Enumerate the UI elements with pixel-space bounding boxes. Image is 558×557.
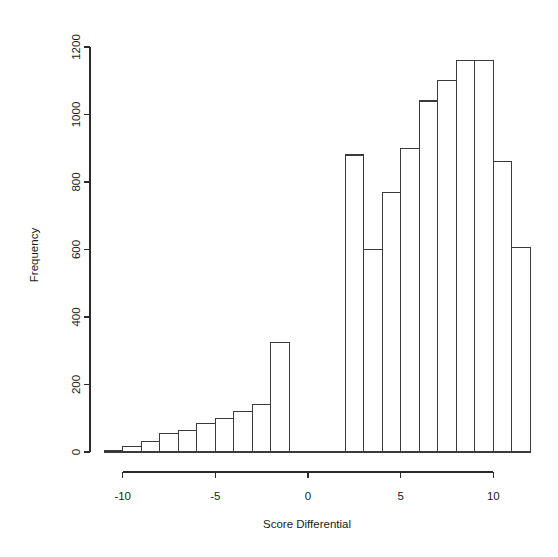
y-axis-tick-label: 0 xyxy=(70,449,82,455)
plot-canvas: 020040060080010001200 -10-50510 Frequenc… xyxy=(0,0,558,557)
x-axis-tick-label: -5 xyxy=(210,490,220,502)
histogram-figure: 020040060080010001200 -10-50510 Frequenc… xyxy=(0,0,558,557)
y-axis-tick-label: 200 xyxy=(70,375,82,394)
x-axis-tick-label: 5 xyxy=(397,490,403,502)
y-axis-tick-label: 800 xyxy=(70,172,82,191)
x-axis-tick-label: 0 xyxy=(305,490,311,502)
x-axis-tick-label: -10 xyxy=(114,490,131,502)
y-axis-tick-label: 1200 xyxy=(70,34,82,60)
x-axis-title: Score Differential xyxy=(263,518,351,530)
y-axis-title: Frequency xyxy=(28,228,40,283)
y-axis-tick-label: 400 xyxy=(70,307,82,326)
y-axis-tick-label: 600 xyxy=(70,240,82,259)
y-axis-tick-label: 1000 xyxy=(70,102,82,128)
x-axis-tick-label: 10 xyxy=(487,490,500,502)
